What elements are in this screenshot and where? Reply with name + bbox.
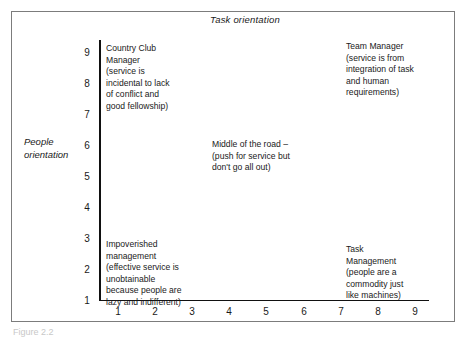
annotation-country-club-manager: Country Club Manager (service is inciden… [106,43,202,113]
annotation-task-management: Task Management (people are a commodity … [346,244,442,302]
y-tick-4: 4 [80,203,94,213]
y-axis-line [99,40,101,301]
y-tick-8: 8 [80,79,94,89]
y-tick-3: 3 [80,234,94,244]
chart-title: Task orientation [120,14,370,25]
x-tick-9: 9 [408,307,422,317]
x-tick-4: 4 [222,307,236,317]
annotation-impoverished-management: Impoverished management (effective servi… [106,239,218,309]
x-tick-6: 6 [297,307,311,317]
x-tick-7: 7 [334,307,348,317]
x-tick-8: 8 [371,307,385,317]
y-tick-2: 2 [80,265,94,275]
managerial-grid-figure: Task orientation People orientation 9 8 … [0,0,466,340]
y-tick-9: 9 [80,48,94,58]
y-tick-5: 5 [80,172,94,182]
y-tick-7: 7 [80,110,94,120]
y-tick-6: 6 [80,141,94,151]
figure-caption: Figure 2.2 [13,327,54,337]
y-tick-1: 1 [80,296,94,306]
x-tick-5: 5 [259,307,273,317]
annotation-middle-of-the-road: Middle of the road – (push for service b… [212,139,328,174]
annotation-team-manager: Team Manager (service is from integratio… [346,41,450,99]
